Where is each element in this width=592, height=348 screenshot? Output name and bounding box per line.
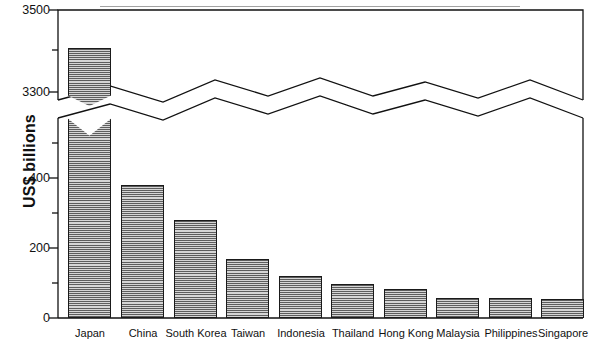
x-tick-label-indonesia: Indonesia bbox=[277, 327, 325, 339]
x-tick-label-thailand: Thailand bbox=[332, 327, 374, 339]
x-tick-label-hong-kong: Hong Kong bbox=[378, 327, 433, 339]
x-tick-label-philippines: Philippines bbox=[484, 327, 537, 339]
bar-thailand bbox=[331, 284, 374, 318]
x-tick-label-taiwan: Taiwan bbox=[231, 327, 265, 339]
bar-indonesia bbox=[279, 276, 322, 318]
x-tick-label-china: China bbox=[129, 327, 158, 339]
bar-hong-kong bbox=[384, 289, 427, 318]
bar-south-korea bbox=[174, 220, 217, 318]
bar-japan bbox=[68, 106, 111, 318]
x-tick-label-south-korea: South Korea bbox=[165, 327, 226, 339]
axis-break-upper-zigzag bbox=[58, 78, 583, 102]
x-tick-label-japan: Japan bbox=[75, 327, 105, 339]
axis-break-lower-zigzag bbox=[58, 96, 583, 120]
bar-singapore bbox=[541, 299, 584, 318]
bar-malaysia bbox=[436, 298, 479, 318]
bar-japan-upper bbox=[68, 48, 111, 106]
x-tick-label-singapore: Singapore bbox=[538, 327, 588, 339]
upper-axis-frame bbox=[58, 10, 583, 100]
chart-figure: US$ billions 3500 3300 400 200 0 bbox=[0, 0, 592, 348]
bar-taiwan bbox=[226, 259, 269, 318]
bar-china bbox=[121, 185, 164, 318]
x-tick-label-malaysia: Malaysia bbox=[436, 327, 479, 339]
bar-philippines bbox=[489, 298, 532, 318]
